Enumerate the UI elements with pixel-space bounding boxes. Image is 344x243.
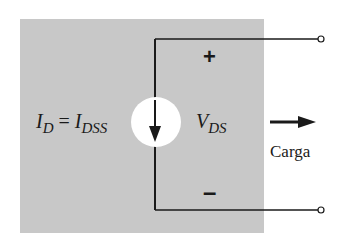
vds-label: VDS [196, 110, 227, 137]
bottom-terminal-icon [318, 207, 324, 213]
top-terminal-icon [318, 36, 324, 42]
current-equation-label: ID = IDSS [36, 110, 107, 137]
load-label: Carga [270, 142, 310, 162]
load-arrow-right-icon [298, 116, 316, 128]
minus-sign: – [203, 178, 216, 206]
plus-sign: + [203, 44, 216, 70]
